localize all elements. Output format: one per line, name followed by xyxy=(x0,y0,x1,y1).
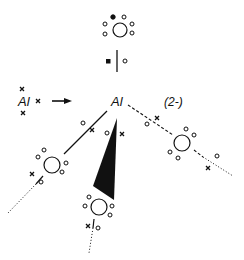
dotted-bond xyxy=(8,184,36,213)
open-electron-dot xyxy=(123,59,127,63)
front-ligand xyxy=(83,118,124,253)
open-electron-dot xyxy=(145,122,149,126)
ligand-atom-circle xyxy=(91,199,107,215)
filled-electron-dot xyxy=(111,15,115,19)
open-electron-dot xyxy=(81,121,85,125)
open-electron-dot xyxy=(103,32,107,36)
right-ligand xyxy=(128,105,233,176)
open-electron-dot xyxy=(103,22,107,26)
open-electron-dot xyxy=(168,150,172,154)
left-ligand xyxy=(8,111,107,213)
top-ligand xyxy=(103,15,134,72)
open-electron-dot xyxy=(122,15,126,19)
open-electron-dot xyxy=(184,127,188,131)
wedge-bond xyxy=(93,118,117,200)
cross-electron xyxy=(155,116,159,120)
cross-electron xyxy=(30,172,34,176)
open-electron-dot xyxy=(36,155,40,159)
cross-electron xyxy=(20,87,24,91)
cross-electron xyxy=(86,224,90,228)
bond-line xyxy=(64,111,107,154)
dashed-bond xyxy=(194,150,203,157)
cross-electron xyxy=(90,128,94,132)
open-electron-dot xyxy=(110,204,114,208)
open-electron-dot xyxy=(192,133,196,137)
reactant-al-label: Al xyxy=(17,94,31,109)
aluminium-complex-diagram: Al Al (2-) xyxy=(0,0,244,260)
filled-square-electron xyxy=(106,59,111,64)
cross-electron xyxy=(206,166,210,170)
ligand-atom-circle xyxy=(174,135,190,151)
charge-label: (2-) xyxy=(164,95,183,109)
open-electron-dot xyxy=(83,204,87,208)
open-electron-dot xyxy=(64,161,68,165)
ligand-atom-circle xyxy=(44,157,60,173)
open-electron-dot xyxy=(105,131,109,135)
open-electron-dot xyxy=(215,154,219,158)
dotted-bond xyxy=(203,157,233,176)
reaction-arrow xyxy=(52,98,72,104)
open-electron-dot xyxy=(130,22,134,26)
open-electron-dot xyxy=(87,195,91,199)
open-electron-dot xyxy=(96,226,100,230)
ligand-atom-circle xyxy=(113,23,127,37)
open-electron-dot xyxy=(108,213,112,217)
open-electron-dot xyxy=(176,156,180,160)
cross-electron xyxy=(120,132,124,136)
open-electron-dot xyxy=(130,31,134,35)
dashed-bond xyxy=(128,105,173,135)
bond-line xyxy=(93,219,94,228)
open-electron-dot xyxy=(60,170,64,174)
cross-electron xyxy=(21,111,25,115)
dotted-bond xyxy=(89,228,93,253)
cross-electron xyxy=(36,99,40,103)
central-al-label: Al xyxy=(110,94,124,109)
open-electron-dot xyxy=(42,148,46,152)
